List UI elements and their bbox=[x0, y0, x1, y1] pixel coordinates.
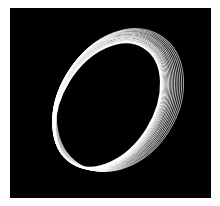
ellipse-rings bbox=[10, 8, 211, 198]
light-trail-photo bbox=[10, 8, 211, 198]
